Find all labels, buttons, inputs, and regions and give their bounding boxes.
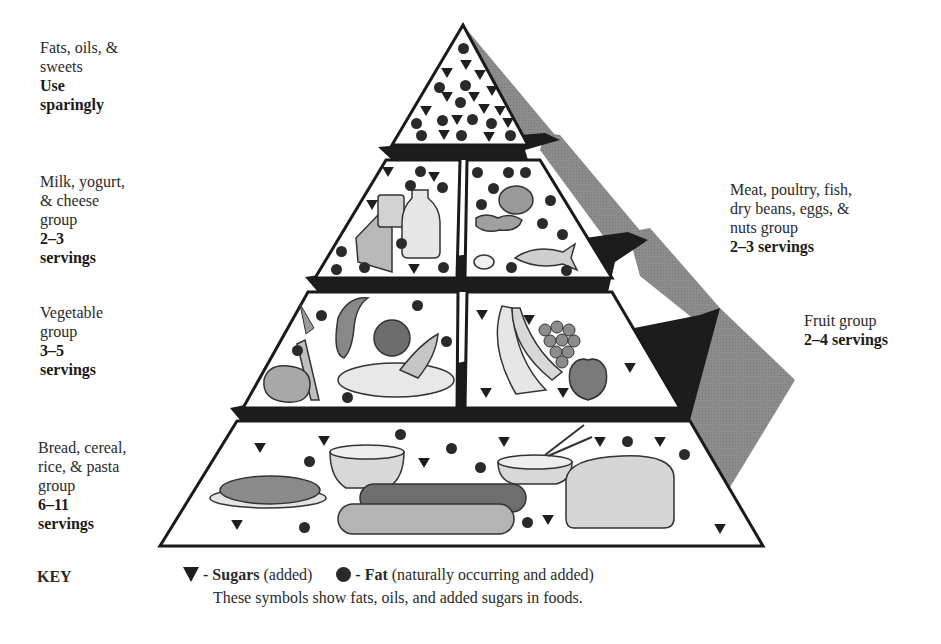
label-text: Fruit group [804, 311, 888, 330]
key-explanation: These symbols show fats, oils, and added… [213, 589, 583, 607]
fat-note: (naturally occurring and added) [392, 566, 594, 583]
sugar-triangle-icon [183, 567, 199, 582]
label-text: rice, & pasta [38, 457, 126, 476]
serving-text: 2–3 servings [730, 237, 852, 256]
key-legend: - Sugars (added) - Fat (naturally occurr… [183, 566, 594, 584]
tier-bread [160, 421, 763, 546]
label-text: Vegetable [40, 303, 103, 322]
tier-vegetable [243, 292, 458, 408]
serving-text: 6–11 [38, 495, 126, 514]
serving-text: 3–5 [40, 341, 103, 360]
serving-text: 2–3 [40, 229, 125, 248]
serving-text: 2–4 servings [804, 330, 888, 349]
label-vegetable: Vegetable group 3–5 servings [40, 303, 103, 379]
label-text: Milk, yogurt, [40, 172, 125, 191]
key-title: KEY [37, 568, 72, 586]
label-text: & cheese [40, 191, 125, 210]
label-bread: Bread, cereal, rice, & pasta group 6–11 … [38, 438, 126, 533]
fat-label: - Fat [355, 566, 387, 583]
label-milk: Milk, yogurt, & cheese group 2–3 serving… [40, 172, 125, 267]
label-text: nuts group [730, 218, 852, 237]
serving-text: servings [38, 514, 126, 533]
serving-text: servings [40, 360, 103, 379]
serving-text: servings [40, 248, 125, 267]
tier-milk [315, 160, 460, 278]
label-text: group [40, 322, 103, 341]
sugars-label: - Sugars [203, 566, 259, 583]
sugars-note: (added) [263, 566, 312, 583]
label-text: sweets [40, 57, 118, 76]
serving-text: Use [40, 76, 118, 95]
fat-circle-icon [336, 567, 351, 582]
label-text: Fats, oils, & [40, 38, 118, 57]
label-text: group [38, 476, 126, 495]
label-text: dry beans, eggs, & [730, 199, 852, 218]
label-text: Meat, poultry, fish, [730, 180, 852, 199]
label-meat: Meat, poultry, fish, dry beans, eggs, & … [730, 180, 852, 256]
label-text: group [40, 210, 125, 229]
serving-text: sparingly [40, 95, 118, 114]
label-fats: Fats, oils, & sweets Use sparingly [40, 38, 118, 114]
food-pyramid-diagram [0, 0, 941, 644]
label-fruit: Fruit group 2–4 servings [804, 311, 888, 349]
label-text: Bread, cereal, [38, 438, 126, 457]
